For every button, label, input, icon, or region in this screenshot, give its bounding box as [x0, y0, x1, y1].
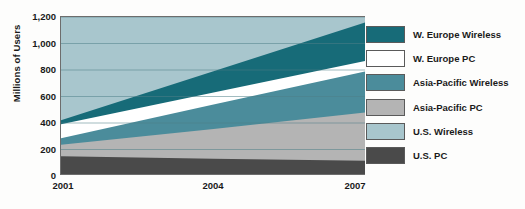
- legend-item-we-pc: W. Europe PC: [366, 46, 522, 70]
- stacked-area-chart-figure: Millions of Users 1,200 1,000 800 600 40…: [0, 0, 525, 209]
- legend-item-us-pc: U.S. PC: [366, 143, 522, 167]
- y-tick-1000: 1,000: [16, 37, 56, 48]
- x-tick-2001: 2001: [52, 180, 73, 191]
- x-tick-2007: 2007: [344, 180, 365, 191]
- area-series-svg: [61, 17, 365, 175]
- plot-area: [60, 16, 365, 175]
- legend-swatch-ap-wireless: [366, 74, 405, 91]
- legend-swatch-us-pc: [366, 147, 405, 164]
- legend-swatch-we-wireless: [366, 26, 405, 43]
- legend-item-ap-pc: Asia-Pacific PC: [366, 95, 522, 119]
- legend-swatch-we-pc: [366, 50, 405, 67]
- y-tick-400: 400: [16, 117, 56, 128]
- legend-item-ap-wireless: Asia-Pacific Wireless: [366, 71, 522, 95]
- legend-swatch-ap-pc: [366, 99, 405, 116]
- x-tick-2004: 2004: [202, 180, 223, 191]
- legend-item-we-wireless: W. Europe Wireless: [366, 22, 522, 46]
- y-tick-0: 0: [16, 170, 56, 181]
- y-tick-600: 600: [16, 90, 56, 101]
- chart-legend: W. Europe Wireless W. Europe PC Asia-Pac…: [366, 22, 522, 168]
- y-axis-tick-labels: 1,200 1,000 800 600 400 200 0: [12, 0, 56, 209]
- legend-label-we-pc: W. Europe PC: [413, 53, 475, 64]
- legend-label-ap-wireless: Asia-Pacific Wireless: [413, 77, 509, 88]
- y-tick-1200: 1,200: [16, 11, 56, 22]
- legend-label-us-pc: U.S. PC: [413, 150, 447, 161]
- y-tick-200: 200: [16, 143, 56, 154]
- legend-swatch-us-wireless: [366, 123, 405, 140]
- legend-label-us-wireless: U.S. Wireless: [413, 126, 473, 137]
- y-tick-800: 800: [16, 64, 56, 75]
- legend-label-ap-pc: Asia-Pacific PC: [413, 102, 483, 113]
- legend-item-us-wireless: U.S. Wireless: [366, 119, 522, 143]
- legend-label-we-wireless: W. Europe Wireless: [413, 29, 501, 40]
